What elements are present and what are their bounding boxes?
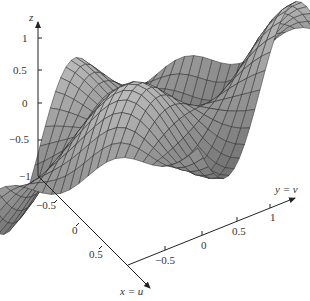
- y-axis-line: [128, 198, 295, 265]
- x-tick-label: 0: [72, 225, 78, 236]
- z-tick-label: 0.5: [13, 65, 27, 76]
- z-tick-label: 0: [22, 98, 28, 109]
- y-tick-label: 0: [201, 240, 207, 251]
- x-axis-line: [38, 176, 150, 288]
- x-tick-label: −0.5: [36, 200, 56, 211]
- x-tick-label: 0.5: [89, 249, 103, 260]
- y-tick-label: 1: [270, 212, 276, 223]
- y-tick-label: −0.5: [155, 255, 175, 266]
- x-axis-label: x = u: [120, 286, 143, 297]
- z-tick-label: −1: [19, 171, 31, 182]
- y-tick-label: 0.5: [232, 226, 246, 237]
- z-tick-label: 1: [22, 33, 28, 44]
- z-axis-label: z: [29, 12, 33, 23]
- z-tick-label: −0.5: [9, 134, 29, 145]
- y-axis-label: y = v: [275, 184, 298, 195]
